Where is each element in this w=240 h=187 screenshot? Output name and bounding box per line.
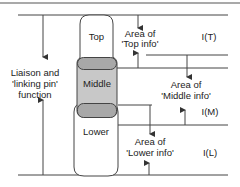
middle-info-label-line2: 'Middle info'	[161, 90, 211, 101]
middle-info-label-line1: Area of	[171, 79, 202, 90]
linking-pin-diagram: Top Middle Lower Liaison and 'linking pi…	[0, 0, 240, 187]
middle-box-label: Middle	[83, 78, 111, 89]
lower-info-label-line2: 'Lower info'	[126, 147, 174, 158]
level-top-label: I(T)	[202, 31, 217, 42]
left-label-line3: function	[18, 89, 51, 100]
left-label-line1: Liaison and	[11, 67, 60, 78]
top-info-label-line2: 'Top info'	[122, 38, 159, 49]
top-box-label: Top	[89, 31, 104, 42]
level-middle-label: I(M)	[202, 106, 219, 117]
overlap-top-middle-fill	[78, 58, 117, 70]
lower-info-label-line1: Area of	[135, 136, 166, 147]
left-label-line2: 'linking pin'	[12, 78, 58, 89]
overlap-middle-lower-fill	[78, 104, 117, 118]
lower-box-label: Lower	[83, 126, 109, 137]
level-lower-label: I(L)	[203, 147, 217, 158]
